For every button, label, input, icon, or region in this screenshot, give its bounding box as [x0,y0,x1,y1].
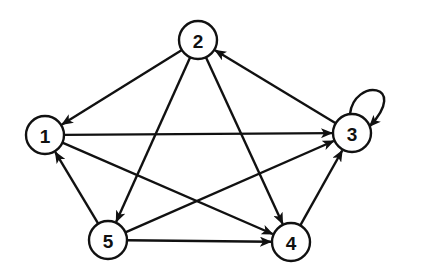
edge-5-to-3 [125,141,333,232]
edges-layer [55,50,384,242]
edge-4-to-3 [300,151,342,226]
edge-1-to-3 [64,133,332,135]
node-5: 5 [89,221,127,259]
node-4: 4 [272,223,310,261]
node-2: 2 [179,21,217,59]
node-label: 5 [103,231,114,252]
node-1: 1 [26,116,64,154]
edge-3-to-2 [215,50,336,123]
edge-1-to-4 [62,143,272,234]
edge-5-to-4 [127,240,271,242]
edge-2-to-5 [116,57,190,222]
node-label: 1 [40,126,51,147]
directed-graph: 12345 [0,0,424,273]
edge-2-to-4 [206,57,283,224]
node-label: 4 [286,233,297,254]
edge-5-to-1 [55,152,98,224]
node-3: 3 [333,114,371,152]
node-label: 3 [347,124,358,145]
nodes-layer: 12345 [26,21,371,261]
node-label: 2 [193,31,204,52]
